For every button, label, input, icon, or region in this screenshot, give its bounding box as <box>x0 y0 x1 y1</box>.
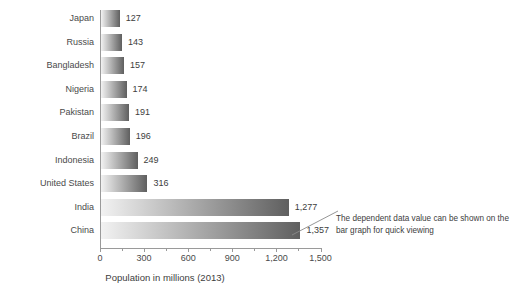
x-tick-label: 600 <box>181 253 196 263</box>
category-label: Nigeria <box>4 81 94 98</box>
bar-row: Indonesia249 <box>100 152 365 169</box>
bar <box>101 57 124 74</box>
bar-row: United States316 <box>100 175 365 192</box>
x-tick-minor <box>298 248 299 251</box>
bar-chart-figure: Japan127Russia143Bangladesh157Nigeria174… <box>0 0 517 300</box>
bar <box>101 222 300 239</box>
bar <box>101 104 129 121</box>
category-label: Japan <box>4 10 94 27</box>
bar <box>101 175 147 192</box>
bar-value-label: 196 <box>136 128 151 145</box>
bar-row: Russia143 <box>100 34 365 51</box>
bar-value-label: 157 <box>130 57 145 74</box>
x-tick-label: 1,500 <box>309 253 332 263</box>
x-tick-minor <box>254 248 255 251</box>
x-tick-major <box>276 248 277 252</box>
bar-row: Brazil196 <box>100 128 365 145</box>
bar <box>101 34 122 51</box>
bar-value-label: 174 <box>133 81 148 98</box>
x-axis-title: Population in millions (2013) <box>0 272 330 283</box>
bar <box>101 199 289 216</box>
x-tick-major <box>321 248 322 252</box>
x-tick-label: 900 <box>225 253 240 263</box>
x-tick-minor <box>166 248 167 251</box>
x-tick-major <box>100 248 101 252</box>
x-tick-major <box>144 248 145 252</box>
x-tick-major <box>232 248 233 252</box>
category-label: India <box>4 199 94 216</box>
category-label: Russia <box>4 34 94 51</box>
bar-row: Pakistan191 <box>100 104 365 121</box>
bar <box>101 128 130 145</box>
bar-value-label: 127 <box>126 10 141 27</box>
bar <box>101 10 120 27</box>
x-tick-label: 1,200 <box>265 253 288 263</box>
x-tick-label: 300 <box>137 253 152 263</box>
bar-value-label: 316 <box>153 175 168 192</box>
bar-value-label: 143 <box>128 34 143 51</box>
bar <box>101 81 127 98</box>
bar-value-label: 191 <box>135 104 150 121</box>
x-tick-minor <box>122 248 123 251</box>
bar-row: Japan127 <box>100 10 365 27</box>
bar-row: Bangladesh157 <box>100 57 365 74</box>
category-label: Bangladesh <box>4 57 94 74</box>
bar-row: Nigeria174 <box>100 81 365 98</box>
x-tick-label: 0 <box>97 253 102 263</box>
category-label: Pakistan <box>4 104 94 121</box>
x-tick-minor <box>210 248 211 251</box>
category-label: United States <box>4 175 94 192</box>
annotation-text: The dependent data value can be shown on… <box>336 213 512 236</box>
category-label: Indonesia <box>4 152 94 169</box>
x-tick-major <box>188 248 189 252</box>
category-label: China <box>4 222 94 239</box>
bar <box>101 152 138 169</box>
bar-value-label: 249 <box>144 152 159 169</box>
category-label: Brazil <box>4 128 94 145</box>
